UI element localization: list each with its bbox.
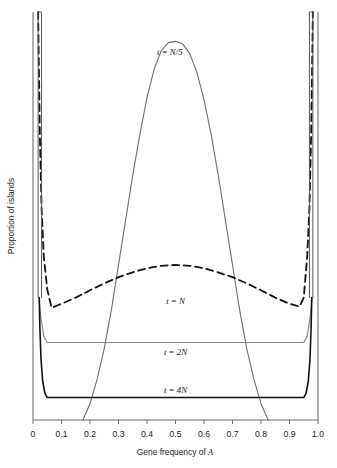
label-t-4n: t = 4N	[164, 385, 188, 395]
plot-frame	[33, 12, 318, 420]
x-tick-label-0.2: 0.2	[84, 429, 96, 439]
label-t-n: t = N	[166, 296, 186, 306]
x-tick-label-0.9: 0.9	[284, 429, 296, 439]
x-axis-ticks	[33, 420, 318, 424]
chart-series-group	[38, 12, 313, 420]
x-axis-title-text: Gene frequency of	[137, 447, 208, 457]
figure-container: 00.10.20.30.40.50.60.70.80.91.0 t = N/5t…	[0, 0, 337, 468]
x-tick-label-0.5: 0.5	[170, 429, 182, 439]
label-t-2n: t = 2N	[164, 347, 188, 357]
x-tick-label-0.6: 0.6	[198, 429, 210, 439]
curve-annotations: t = N/5t = Nt = 2Nt = 4N	[157, 47, 188, 396]
y-axis-title: Proportion of islands	[6, 178, 16, 254]
population-genetics-line-chart: 00.10.20.30.40.50.60.70.80.91.0 t = N/5t…	[0, 0, 337, 468]
x-tick-label-0.7: 0.7	[227, 429, 239, 439]
series-t-n-5	[83, 41, 268, 420]
x-tick-label-0: 0	[31, 429, 36, 439]
x-tick-label-0.4: 0.4	[141, 429, 153, 439]
x-tick-label-0.3: 0.3	[113, 429, 125, 439]
x-tick-label-0.1: 0.1	[56, 429, 68, 439]
x-tick-label-1.0: 1.0	[312, 429, 324, 439]
label-t-n-over-5: t = N/5	[157, 47, 183, 57]
x-tick-label-0.8: 0.8	[255, 429, 267, 439]
x-axis-title: Gene frequency of A	[137, 447, 214, 457]
x-axis-tick-labels: 00.10.20.30.40.50.60.70.80.91.0	[31, 429, 325, 439]
x-axis-title-allele: A	[207, 448, 214, 457]
